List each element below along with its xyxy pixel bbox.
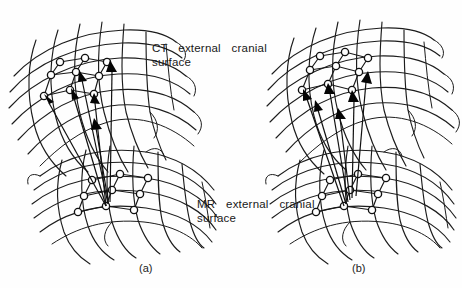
panel-a-displacement-vectors [44, 60, 117, 206]
panel-b-ct-surface-mesh [267, 20, 459, 174]
displacement-vector [91, 118, 108, 200]
panel-b-displacement-vectors [303, 71, 372, 206]
mr-surface-label: MR external cranialsurface [197, 198, 315, 225]
mr-surface-label-line2: surface [197, 212, 236, 224]
mr-surface-label-line1: MR external cranial [197, 198, 315, 210]
displacement-vector [71, 88, 106, 206]
ct-surface-label-line1: CT external cranial [152, 42, 267, 54]
displacement-vector [106, 60, 117, 202]
ct-surface-label: CT external cranialsurface [152, 42, 267, 69]
figure-root: CT external cranialsurface MR external c… [0, 0, 462, 288]
panel-a-caption: (a) [139, 262, 152, 274]
panel-b-caption: (b) [352, 262, 365, 274]
ct-surface-label-line2: surface [152, 56, 191, 68]
displacement-vector [303, 89, 344, 206]
